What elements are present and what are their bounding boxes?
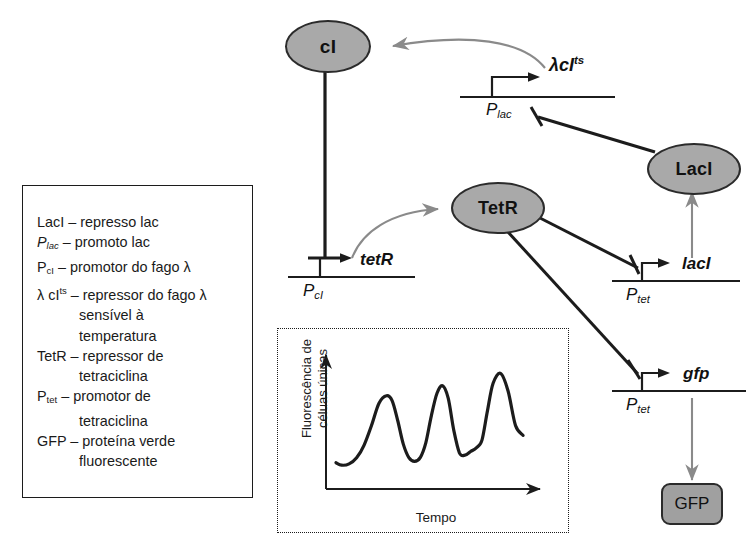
plac-sub: lac	[497, 108, 511, 120]
inset-chart: Fluorescência decéluas únicas Tempo	[277, 328, 569, 533]
legend-term: λ cIts	[37, 287, 67, 303]
promoter-label-plac: Plac	[486, 100, 512, 120]
pci-prefix: P	[303, 281, 314, 300]
node-tetr-label: TetR	[478, 198, 518, 219]
promoter-label-ptet-laci: Ptet	[626, 285, 650, 305]
legend-description: – repressor de	[67, 348, 164, 364]
legend-term: GFP	[37, 433, 66, 449]
ptet-gfp-prefix: P	[626, 395, 637, 414]
legend-term: TetR	[37, 348, 67, 364]
legend-item: λ cIts – repressor do fago λsensível àte…	[37, 281, 252, 345]
node-gfp-label: GFP	[675, 494, 710, 514]
legend-description: – represso lac	[64, 214, 158, 230]
pci-sub: cI	[314, 289, 323, 301]
node-tetr[interactable]: TetR	[451, 182, 545, 234]
legend-description-continued: sensível à	[37, 305, 252, 325]
legend-box: LacI – represso lacPlac – promoto lacPcI…	[22, 185, 253, 498]
chart-plot	[308, 337, 563, 505]
lambda-ci-sup: ts	[574, 54, 584, 66]
node-ci[interactable]: cI	[285, 20, 371, 73]
arrow-lambdaci-to-ci	[393, 40, 545, 68]
repression-ci-to-tetr	[308, 72, 342, 258]
legend-term: Ptet	[37, 388, 57, 404]
legend-term: PcI	[37, 259, 54, 275]
ptet-laci-prefix: P	[626, 285, 637, 304]
legend-description-continued: tetraciclina	[37, 366, 252, 386]
node-laci-label: LacI	[675, 159, 712, 180]
gene-lambda-ci-ts	[460, 72, 615, 97]
legend-description-continued: fluorescente	[37, 451, 252, 471]
legend-description: – repressor do fago λ	[67, 287, 207, 303]
repression-tetr-to-laci	[540, 218, 639, 274]
ptet-laci-sub: tet	[637, 293, 649, 305]
legend-item: Plac – promoto lac	[37, 232, 252, 257]
gene-label-lambda-ci-ts: λcIts	[549, 54, 584, 76]
gfp-gene-name: gfp	[683, 364, 709, 383]
legend-description-continued: tetraciclina	[37, 411, 252, 431]
legend-item: TetR – repressor detetraciclina	[37, 346, 252, 386]
legend-item: GFP – proteína verdefluorescente	[37, 431, 252, 471]
gene-label-tetr: tetR	[360, 250, 393, 270]
promoter-label-ptet-gfp: Ptet	[626, 395, 650, 415]
legend-item: PcI – promotor do fago λ	[37, 257, 252, 282]
gene-laci	[612, 258, 740, 281]
legend-description: – proteína verde	[66, 433, 175, 449]
repression-laci-to-plac	[531, 107, 655, 152]
node-ci-label: cI	[320, 36, 336, 58]
legend-description-continued: temperatura	[37, 326, 252, 346]
promoter-label-pci: PcI	[303, 281, 323, 301]
plac-prefix: P	[486, 100, 497, 119]
diagram-canvas: cI LacI TetR GFP λcIts Plac tetR PcI lac…	[0, 0, 756, 545]
node-gfp[interactable]: GFP	[661, 483, 723, 525]
legend-item: Ptet – promotor detetraciclina	[37, 386, 252, 431]
tetr-gene-name: tetR	[360, 250, 393, 269]
legend-term: LacI	[37, 214, 64, 230]
chart-x-axis-label: Tempo	[278, 510, 568, 525]
legend-list: LacI – represso lacPlac – promoto lacPcI…	[23, 186, 252, 471]
gene-gfp	[612, 368, 746, 391]
legend-description: – promoto lac	[59, 234, 150, 250]
lambda-ci-name: λcI	[549, 55, 574, 75]
legend-term: Plac	[37, 234, 59, 250]
ptet-gfp-sub: tet	[637, 403, 649, 415]
legend-description: – promotor de	[57, 388, 151, 404]
legend-description: – promotor do fago λ	[54, 259, 191, 275]
laci-gene-name: lacI	[682, 254, 710, 273]
node-laci[interactable]: LacI	[647, 143, 741, 195]
legend-item: LacI – represso lac	[37, 212, 252, 232]
gene-label-gfp: gfp	[683, 364, 709, 384]
gene-label-laci: lacI	[682, 254, 710, 274]
chart-data-curve	[336, 373, 523, 465]
